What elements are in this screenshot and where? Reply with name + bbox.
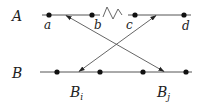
point-c-label: c	[126, 18, 133, 32]
point-d-label: d	[182, 19, 190, 33]
point-b1	[54, 69, 59, 74]
point-b2	[97, 69, 102, 74]
point-b-label: b	[94, 18, 102, 32]
point-b3	[140, 69, 145, 74]
bj-label: Bj	[156, 84, 170, 102]
row-label-b: B	[11, 65, 22, 81]
point-a	[46, 12, 51, 17]
point-b	[89, 12, 94, 17]
bi-label: Bi	[69, 84, 83, 102]
diagram: A B a b c d Bi Bj	[0, 0, 202, 105]
arrow-bi-to-c	[79, 16, 156, 72]
zigzag-break	[103, 7, 122, 19]
point-c	[132, 12, 137, 17]
row-label-a: A	[10, 8, 22, 24]
line-a	[42, 7, 191, 19]
point-a-label: a	[44, 18, 51, 32]
arrow-a-to-bj	[66, 16, 164, 72]
point-d	[181, 12, 186, 17]
point-b4	[183, 69, 188, 74]
